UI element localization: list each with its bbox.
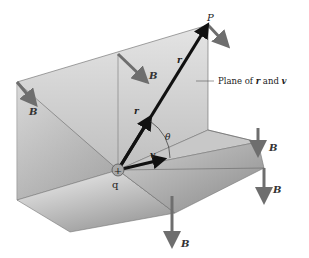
b-arrow-p (208, 25, 224, 42)
label-b-left: B (28, 106, 37, 117)
charge-sign: + (114, 165, 122, 176)
label-b-right: B (272, 184, 281, 195)
charge-q: + (112, 164, 124, 176)
label-b-mid: B (148, 70, 157, 81)
charge-field-diagram: + P r r v θ q B B B B B Plane of r and v (0, 0, 309, 258)
label-v: v (150, 150, 156, 160)
label-p: P (206, 12, 214, 23)
label-theta: θ (165, 132, 171, 142)
label-b-bottom: B (180, 238, 189, 249)
label-b-right-top: B (268, 142, 277, 153)
plane-caption: Plane of r and v (218, 76, 288, 86)
label-q: q (112, 179, 119, 190)
